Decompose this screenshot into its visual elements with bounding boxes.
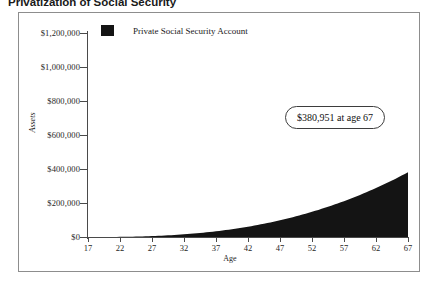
x-axis-tick <box>216 238 217 242</box>
y-axis-labels: $0$200,000$400,000$600,000$800,000$1,000… <box>0 0 80 286</box>
y-axis-tick <box>80 237 87 238</box>
y-axis-tick <box>80 135 87 136</box>
x-axis-tick <box>344 238 345 242</box>
x-axis-tick <box>248 238 249 242</box>
x-axis-tick-label: 47 <box>276 243 285 253</box>
y-axis-tick-label: $0 <box>71 232 80 242</box>
legend-swatch-private-account <box>101 25 114 36</box>
y-axis-tick <box>80 169 87 170</box>
y-axis-tick-label: $400,000 <box>47 164 80 174</box>
x-axis-tick <box>280 238 281 242</box>
area-path <box>88 172 408 237</box>
x-axis-tick <box>120 238 121 242</box>
y-axis-tick <box>80 203 87 204</box>
x-axis-tick-label: 52 <box>308 243 317 253</box>
y-axis-tick <box>80 67 87 68</box>
x-axis-tick-label: 57 <box>340 243 349 253</box>
y-axis-tick-label: $600,000 <box>47 130 80 140</box>
x-axis-tick-label: 67 <box>404 243 413 253</box>
x-axis-tick-label: 42 <box>244 243 253 253</box>
x-axis-tick <box>312 238 313 242</box>
x-axis-tick-label: 17 <box>84 243 93 253</box>
x-axis-tick-label: 62 <box>372 243 381 253</box>
legend: Private Social Security Account <box>101 25 248 36</box>
plot-area <box>88 33 408 237</box>
annotation-callout: $380,951 at age 67 <box>285 106 385 129</box>
area-series <box>88 33 408 237</box>
y-axis-tick-label: $800,000 <box>47 96 80 106</box>
y-axis-tick-label: $1,200,000 <box>41 28 80 38</box>
x-axis-tick-label: 37 <box>212 243 221 253</box>
y-axis-tick-label: $1,000,000 <box>41 62 80 72</box>
x-axis-tick <box>376 238 377 242</box>
x-axis-tick <box>184 238 185 242</box>
legend-label-private-account: Private Social Security Account <box>133 26 248 36</box>
y-axis-tick <box>80 33 87 34</box>
x-axis-title-text: Age <box>223 254 236 263</box>
chart-figure: Privatization of Social Security $0$200,… <box>0 0 432 286</box>
x-axis-tick-label: 27 <box>148 243 157 253</box>
y-axis-tick-label: $200,000 <box>47 198 80 208</box>
x-axis-tick <box>88 238 89 242</box>
y-axis-title: Assets <box>28 113 37 133</box>
x-axis-tick <box>408 238 409 242</box>
x-axis-title: Age <box>0 254 432 263</box>
x-axis-tick <box>152 238 153 242</box>
x-axis-tick-label: 22 <box>116 243 125 253</box>
x-axis-tick-label: 32 <box>180 243 189 253</box>
y-axis-tick <box>80 101 87 102</box>
